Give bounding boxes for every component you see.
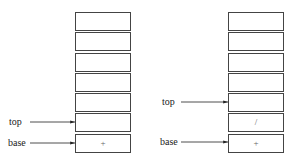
- pointer-arrows: [0, 0, 291, 160]
